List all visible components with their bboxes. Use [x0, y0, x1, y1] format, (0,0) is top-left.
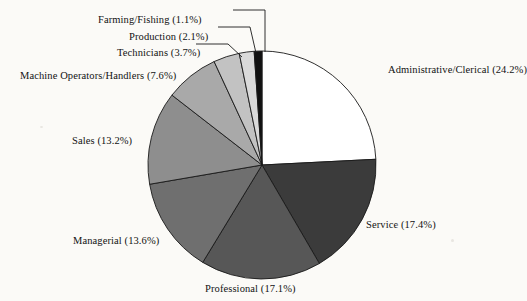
- production-leader: [218, 27, 256, 53]
- pie-slices-group: [148, 51, 376, 279]
- scan-speckle: [451, 239, 454, 242]
- pie-slice-label-production: Production (2.1%): [129, 31, 208, 43]
- pie-slice-administrative-clerical: [262, 51, 376, 165]
- pie-slice-label-administrative-clerical: Administrative/Clerical (24.2%): [388, 64, 527, 76]
- pie-slice-label-sales: Sales (13.2%): [72, 135, 132, 147]
- pie-slice-label-machine-operators-handlers: Machine Operators/Handlers (7.6%): [20, 70, 176, 82]
- scan-speckle: [40, 126, 43, 128]
- pie-slice-label-managerial: Managerial (13.6%): [73, 235, 159, 247]
- pie-slice-label-technicians: Technicians (3.7%): [117, 47, 200, 59]
- pie-slice-label-service: Service (17.4%): [366, 219, 436, 231]
- pie-slice-label-farming-fishing: Farming/Fishing (1.1%): [98, 14, 202, 26]
- scan-speckle: [396, 224, 398, 226]
- pie-slice-label-professional: Professional (17.1%): [205, 283, 296, 295]
- farming-fishing-leader: [233, 10, 265, 52]
